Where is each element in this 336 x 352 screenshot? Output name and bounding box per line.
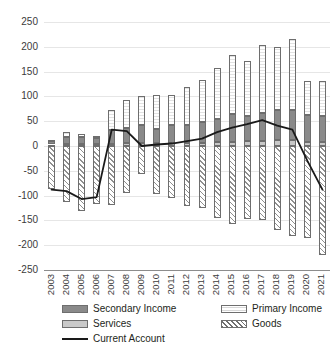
bar-segment-secondary-income-2012 <box>184 125 191 143</box>
x-tick-label-2018: 2018 <box>271 274 283 295</box>
x-tick-label-2019: 2019 <box>286 274 298 295</box>
bar-segment-services-2010 <box>153 143 160 146</box>
bar-segment-goods-2010 <box>153 146 160 194</box>
bar-segment-goods-2017 <box>259 146 266 220</box>
x-tick-label-2013: 2013 <box>196 274 208 295</box>
bar-column-2012 <box>184 22 191 270</box>
bar-segment-goods-2020 <box>304 146 311 238</box>
bar-column-2005 <box>78 22 85 270</box>
legend-item-primary-income: Primary Income <box>221 303 322 314</box>
legend-label-services: Services <box>93 318 131 329</box>
x-tick-label-2012: 2012 <box>181 274 193 295</box>
bar-column-2011 <box>168 22 175 270</box>
bar-segment-services-2013 <box>199 143 206 146</box>
bar-segment-secondary-income-2009 <box>138 125 145 143</box>
bar-segment-secondary-income-2021 <box>319 116 326 142</box>
bar-segment-secondary-income-2014 <box>214 119 221 142</box>
y-tick-label-200: 200 <box>4 42 38 52</box>
bar-segment-primary-income-2014 <box>214 68 221 120</box>
legend-item-goods: Goods <box>221 318 281 329</box>
bar-segment-goods-2009 <box>138 146 145 174</box>
x-tick-label-2009: 2009 <box>136 274 148 295</box>
bar-column-2008 <box>123 22 130 270</box>
x-tick-label-2005: 2005 <box>76 274 88 295</box>
x-tick-label-2020: 2020 <box>301 274 313 295</box>
bar-segment-goods-2014 <box>214 146 221 218</box>
y-tick-label--200: -200 <box>4 240 38 250</box>
bar-segment-primary-income-2011 <box>168 95 175 125</box>
x-tick-label-2017: 2017 <box>256 274 268 295</box>
bar-column-2017 <box>259 22 266 270</box>
bar-column-2021 <box>319 22 326 270</box>
bar-column-2019 <box>289 22 296 270</box>
bar-segment-primary-income-2015 <box>229 55 236 114</box>
bar-segment-primary-income-2016 <box>244 61 251 117</box>
x-tick-label-2016: 2016 <box>241 274 253 295</box>
bar-segment-primary-income-2012 <box>184 87 191 125</box>
bar-segment-services-2012 <box>184 143 191 146</box>
bar-segment-services-2017 <box>259 141 266 146</box>
legend-swatch-current-account <box>62 338 88 340</box>
bar-segment-secondary-income-2005 <box>78 137 85 144</box>
y-tick-label-100: 100 <box>4 91 38 101</box>
bar-segment-services-2020 <box>304 142 311 146</box>
bar-segment-services-2004 <box>63 144 70 146</box>
legend-item-services: Services <box>62 318 131 329</box>
bar-segment-secondary-income-2015 <box>229 114 236 142</box>
bar-segment-secondary-income-2006 <box>93 138 100 144</box>
y-tick-label-0: 0 <box>4 141 38 151</box>
y-tick-label--50: -50 <box>4 166 38 176</box>
bar-segment-services-2005 <box>78 144 85 146</box>
bar-column-2009 <box>138 22 145 270</box>
x-tick-label-2015: 2015 <box>226 274 238 295</box>
bar-column-2004 <box>63 22 70 270</box>
bar-segment-secondary-income-2013 <box>199 122 206 143</box>
legend-row-2: Services Goods <box>62 318 330 333</box>
bar-segment-services-2016 <box>244 141 251 146</box>
bar-segment-services-2015 <box>229 142 236 146</box>
plot-area <box>44 22 330 270</box>
y-tick-label--100: -100 <box>4 191 38 201</box>
bar-segment-primary-income-2010 <box>153 95 160 129</box>
bar-segment-services-2008 <box>123 143 130 146</box>
bar-segment-goods-2018 <box>274 146 281 230</box>
bar-segment-secondary-income-2004 <box>63 137 70 143</box>
bar-column-2014 <box>214 22 221 270</box>
y-tick-label--250: -250 <box>4 265 38 275</box>
bar-segment-services-2003 <box>48 145 55 147</box>
bar-column-2018 <box>274 22 281 270</box>
bar-segment-primary-income-2013 <box>199 80 206 122</box>
x-tick-label-2004: 2004 <box>61 274 73 295</box>
legend-item-current-account: Current Account <box>62 333 165 344</box>
bar-segment-goods-2016 <box>244 146 251 219</box>
bar-segment-services-2007 <box>108 144 115 146</box>
x-tick-label-2014: 2014 <box>211 274 223 295</box>
bar-segment-secondary-income-2018 <box>274 110 281 140</box>
legend-label-goods: Goods <box>252 318 281 329</box>
x-tick-label-2006: 2006 <box>91 274 103 295</box>
bar-segment-services-2018 <box>274 140 281 146</box>
bar-segment-primary-income-2004 <box>63 132 70 137</box>
legend-row-1: Secondary Income Primary Income <box>62 303 330 318</box>
x-tick-label-2010: 2010 <box>151 274 163 295</box>
x-tick-label-2008: 2008 <box>121 274 133 295</box>
bar-column-2020 <box>304 22 311 270</box>
bar-segment-services-2014 <box>214 142 221 146</box>
bar-column-2015 <box>229 22 236 270</box>
bar-segment-services-2011 <box>168 143 175 146</box>
bar-segment-primary-income-2021 <box>319 81 326 116</box>
bar-segment-secondary-income-2008 <box>123 128 130 143</box>
chart-legend: Secondary Income Primary Income Services… <box>62 303 330 348</box>
gridline--250 <box>44 270 330 271</box>
bar-segment-primary-income-2009 <box>138 96 145 125</box>
x-tick-label-2007: 2007 <box>106 274 118 295</box>
bar-segment-goods-2005 <box>78 146 85 211</box>
y-tick-label-250: 250 <box>4 17 38 27</box>
bar-segment-goods-2006 <box>93 146 100 204</box>
x-tick-label-2003: 2003 <box>46 274 58 295</box>
legend-row-3: Current Account <box>62 333 330 348</box>
bar-segment-secondary-income-2016 <box>244 116 251 141</box>
bar-column-2007 <box>108 22 115 270</box>
bar-segment-services-2006 <box>93 144 100 146</box>
bar-segment-primary-income-2017 <box>259 45 266 113</box>
